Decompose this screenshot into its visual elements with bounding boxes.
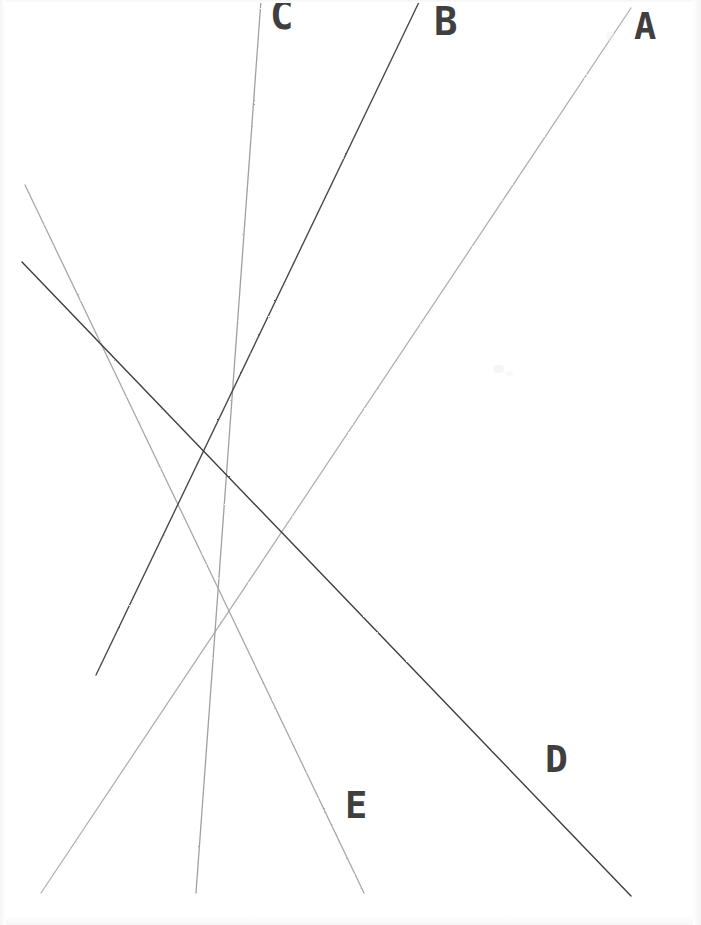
curve-E: [25, 185, 364, 893]
curve-D: [22, 262, 631, 896]
curve-B: [96, 0, 420, 675]
curve-A: [41, 8, 631, 893]
curve-label-d: D: [545, 740, 568, 778]
figure-canvas: A B C D E: [0, 0, 701, 925]
curve-label-b: B: [434, 2, 457, 41]
curve-label-e: E: [345, 787, 367, 824]
curve-label-a: A: [634, 8, 656, 45]
curve-label-c: C: [270, 0, 293, 35]
